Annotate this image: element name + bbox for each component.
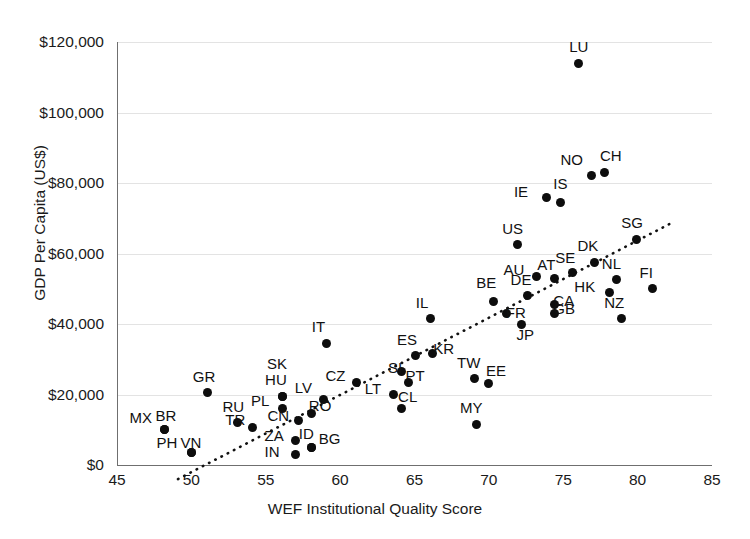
- x-tick-label: 85: [682, 471, 742, 489]
- data-point[interactable]: [484, 379, 493, 388]
- data-point-label: LV: [295, 380, 312, 395]
- x-tick-label: 60: [310, 471, 370, 489]
- x-tick-label: 55: [236, 471, 296, 489]
- data-point[interactable]: [632, 235, 641, 244]
- data-point[interactable]: [322, 339, 331, 348]
- y-tick-label: $100,000: [8, 105, 104, 121]
- y-tick-label: $120,000: [8, 34, 104, 50]
- data-point[interactable]: [352, 378, 361, 387]
- data-point[interactable]: [160, 425, 169, 434]
- data-point[interactable]: [389, 390, 398, 399]
- data-point[interactable]: [612, 275, 621, 284]
- y-tick-label: $80,000: [8, 175, 104, 191]
- data-point-label: FI: [640, 265, 653, 280]
- data-point[interactable]: [617, 314, 626, 323]
- data-point-label: HU: [265, 372, 287, 387]
- data-point-label: KR: [433, 341, 454, 356]
- data-point[interactable]: [248, 423, 257, 432]
- x-axis-line: [117, 465, 712, 466]
- data-point-label: PH: [156, 435, 177, 450]
- data-point[interactable]: [542, 193, 551, 202]
- x-tick-label: 65: [385, 471, 445, 489]
- data-point[interactable]: [291, 450, 300, 459]
- data-point[interactable]: [568, 268, 577, 277]
- trend-line: [0, 0, 750, 539]
- data-point-label: ZA: [265, 428, 284, 443]
- data-point-label: CH: [600, 148, 622, 163]
- gridline: [117, 183, 712, 184]
- data-point-label: FR: [506, 305, 526, 320]
- data-point-label: GB: [553, 301, 575, 316]
- data-point-label: TR: [225, 412, 245, 427]
- x-tick-label: 75: [533, 471, 593, 489]
- y-tick-label: $20,000: [8, 387, 104, 403]
- data-point-label: SE: [555, 250, 575, 265]
- scatter-chart: GDP Per Capita (US$) WEF Institutional Q…: [0, 0, 750, 539]
- data-point-label: TW: [457, 355, 480, 370]
- data-point-label: VN: [180, 435, 201, 450]
- data-point-label: BE: [476, 275, 496, 290]
- gridline: [117, 42, 712, 43]
- data-point-label: CN: [267, 408, 289, 423]
- gridline: [117, 254, 712, 255]
- data-point-label: BG: [319, 431, 341, 446]
- data-point-label: SI: [388, 360, 402, 375]
- y-axis-line: [117, 42, 118, 466]
- data-point[interactable]: [513, 240, 522, 249]
- data-point-label: IS: [553, 176, 567, 191]
- data-point-label: LT: [365, 381, 381, 396]
- data-point-label: GR: [193, 369, 216, 384]
- data-point[interactable]: [532, 272, 541, 281]
- gridline: [117, 113, 712, 114]
- data-point[interactable]: [523, 291, 532, 300]
- data-point[interactable]: [489, 297, 498, 306]
- x-tick-label: 50: [161, 471, 221, 489]
- data-point-label: JP: [517, 327, 535, 342]
- data-point-label: IL: [416, 295, 429, 310]
- data-point[interactable]: [600, 168, 609, 177]
- data-point-label: CL: [398, 389, 417, 404]
- data-point-label: ES: [397, 332, 417, 347]
- data-point[interactable]: [411, 351, 420, 360]
- data-point-label: IT: [312, 319, 325, 334]
- data-point-label: NZ: [604, 295, 624, 310]
- data-point[interactable]: [470, 374, 479, 383]
- data-point-label: SK: [267, 356, 287, 371]
- data-point[interactable]: [590, 258, 599, 267]
- data-point[interactable]: [574, 59, 583, 68]
- y-tick-label: $40,000: [8, 316, 104, 332]
- x-tick-label: 70: [459, 471, 519, 489]
- data-point-label: AT: [537, 257, 555, 272]
- data-point[interactable]: [472, 420, 481, 429]
- data-point[interactable]: [550, 274, 559, 283]
- y-tick-label: $60,000: [8, 246, 104, 262]
- data-point[interactable]: [294, 416, 303, 425]
- data-point-label: PL: [251, 393, 269, 408]
- data-point[interactable]: [397, 404, 406, 413]
- data-point-label: LU: [569, 39, 588, 54]
- data-point-label: SG: [621, 215, 643, 230]
- x-tick-label: 45: [87, 471, 147, 489]
- gridline: [117, 324, 712, 325]
- data-point-label: HK: [574, 279, 595, 294]
- data-point-label: PT: [406, 368, 425, 383]
- data-point[interactable]: [648, 284, 657, 293]
- data-point[interactable]: [587, 171, 596, 180]
- data-point-label: BR: [156, 408, 177, 423]
- data-point-label: CZ: [325, 368, 345, 383]
- data-point-label: US: [502, 221, 523, 236]
- data-point-label: NO: [561, 152, 584, 167]
- data-point-label: MY: [460, 400, 483, 415]
- x-axis-title: WEF Institutional Quality Score: [0, 500, 750, 518]
- data-point-label: MX: [130, 410, 153, 425]
- data-point-label: RO: [309, 398, 332, 413]
- data-point[interactable]: [307, 443, 316, 452]
- data-point[interactable]: [556, 198, 565, 207]
- data-point[interactable]: [278, 392, 287, 401]
- data-point-label: EE: [486, 363, 506, 378]
- data-point-label: IE: [514, 184, 528, 199]
- data-point[interactable]: [426, 314, 435, 323]
- x-tick-label: 80: [608, 471, 668, 489]
- data-point-label: NL: [602, 256, 621, 271]
- data-point-label: ID: [299, 426, 314, 441]
